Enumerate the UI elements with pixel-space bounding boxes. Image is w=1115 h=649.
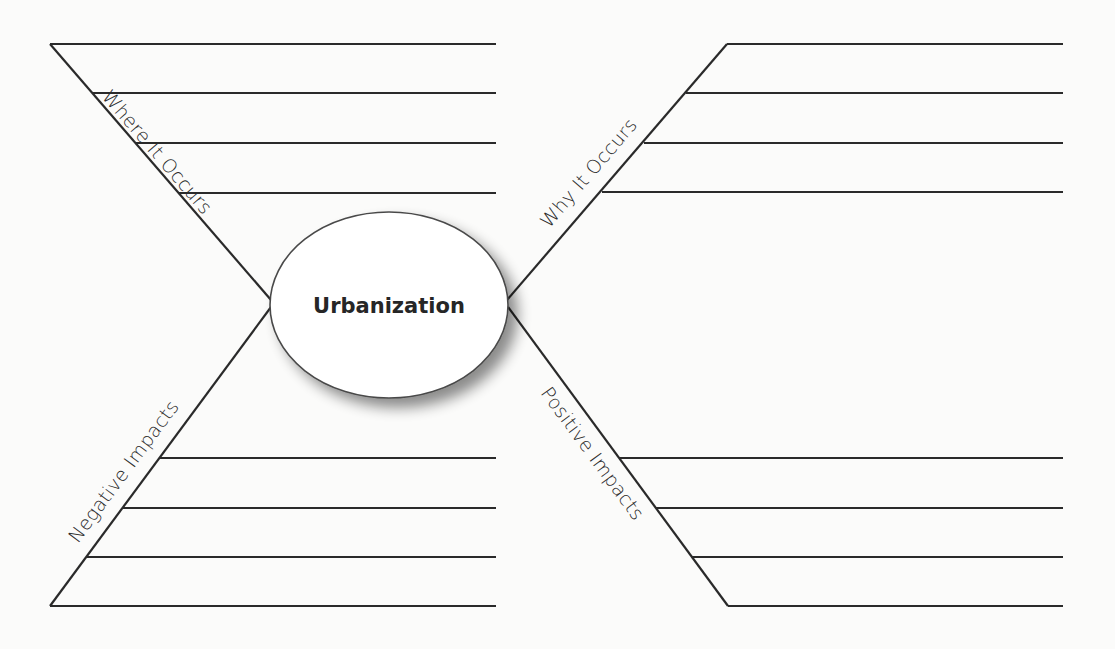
leg-label-where-it-occurs: Where It Occurs bbox=[98, 85, 217, 218]
spider-map-diagram: Where It Occurs Why It Occurs Negative I… bbox=[0, 0, 1115, 649]
spider-legs bbox=[50, 44, 1063, 606]
spider-map-canvas: Where It Occurs Why It Occurs Negative I… bbox=[0, 0, 1115, 649]
leg-diagonal-line bbox=[508, 307, 728, 606]
leg-label-positive-impacts: Positive Impacts bbox=[537, 382, 649, 524]
leg-diagonal-line bbox=[50, 307, 271, 606]
leg-label-why-it-occurs: Why It Occurs bbox=[535, 114, 641, 232]
leg-diagonal-line bbox=[507, 44, 727, 300]
center-topic-node: Urbanization bbox=[270, 212, 508, 398]
leg-label-negative-impacts: Negative Impacts bbox=[64, 396, 183, 547]
center-topic-label: Urbanization bbox=[313, 294, 465, 318]
